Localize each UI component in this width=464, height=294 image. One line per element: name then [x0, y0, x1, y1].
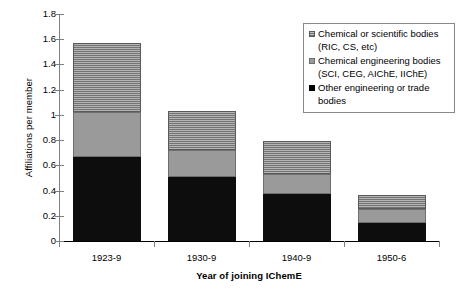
legend-swatch-icon	[309, 58, 315, 64]
x-axis-title: Year of joining IChemE	[59, 270, 439, 281]
y-tick-mark	[55, 216, 64, 217]
bar-segment[interactable]	[73, 112, 141, 156]
bar-segment[interactable]	[168, 150, 236, 176]
legend-swatch-icon	[309, 31, 315, 37]
y-tick-mark	[55, 140, 64, 141]
bar-segment[interactable]	[168, 177, 236, 241]
y-tick-label: 1	[22, 110, 56, 120]
bar-segment[interactable]	[263, 141, 331, 174]
chart-legend: Chemical or scientific bodies (RIC, CS, …	[303, 23, 455, 113]
y-tick-mark	[55, 165, 64, 166]
bar-segment[interactable]	[263, 194, 331, 241]
bar-segment[interactable]	[73, 157, 141, 241]
legend-entry[interactable]: Other engineering or trade bodies	[309, 82, 450, 107]
y-tick-mark	[55, 14, 64, 15]
x-tick-label: 1940-9	[249, 252, 344, 263]
y-tick-mark	[55, 64, 64, 65]
legend-swatch-icon	[309, 85, 315, 91]
y-tick-mark	[55, 191, 64, 192]
y-tick-label: 0	[22, 236, 56, 246]
y-tick-label: 0.8	[22, 135, 56, 145]
x-tick-label: 1950-6	[344, 252, 439, 263]
x-tick-label: 1930-9	[154, 252, 249, 263]
x-tick-mark	[154, 241, 155, 247]
x-tick-mark	[249, 241, 250, 247]
legend-label: Other engineering or trade bodies	[318, 82, 429, 107]
y-tick-label: 1.2	[22, 85, 56, 95]
bar-segment[interactable]	[168, 111, 236, 150]
x-tick-mark	[439, 241, 440, 247]
bar-segment[interactable]	[358, 223, 426, 241]
bar-stack[interactable]	[168, 111, 236, 241]
bar-stack[interactable]	[263, 141, 331, 241]
y-tick-label: 1.4	[22, 59, 56, 69]
x-axis-tick-labels: 1923-91930-91940-91950-6	[59, 252, 439, 266]
y-axis-tick-labels: 00.20.40.60.811.21.41.61.8	[22, 14, 56, 242]
y-tick-label: 0.4	[22, 186, 56, 196]
y-tick-label: 1.6	[22, 34, 56, 44]
y-tick-label: 0.6	[22, 160, 56, 170]
bar-segment[interactable]	[263, 174, 331, 194]
x-tick-mark	[344, 241, 345, 247]
stacked-bar-chart: Affiliations per member 00.20.40.60.811.…	[0, 0, 464, 294]
y-tick-mark	[55, 115, 64, 116]
bar-stack[interactable]	[73, 43, 141, 241]
legend-entry[interactable]: Chemical engineering bodies (SCI, CEG, A…	[309, 55, 450, 80]
legend-label: Chemical or scientific bodies (RIC, CS, …	[318, 28, 438, 53]
bar-stack[interactable]	[358, 195, 426, 241]
y-tick-label: 0.2	[22, 211, 56, 221]
bar-segment[interactable]	[358, 209, 426, 222]
x-tick-label: 1923-9	[59, 252, 154, 263]
bar-segment[interactable]	[73, 43, 141, 112]
bar-segment[interactable]	[358, 195, 426, 210]
x-tick-mark	[59, 241, 60, 247]
legend-label: Chemical engineering bodies (SCI, CEG, A…	[318, 55, 441, 80]
y-tick-label: 1.8	[22, 9, 56, 19]
y-tick-mark	[55, 90, 64, 91]
legend-entry[interactable]: Chemical or scientific bodies (RIC, CS, …	[309, 28, 450, 53]
y-tick-mark	[55, 39, 64, 40]
